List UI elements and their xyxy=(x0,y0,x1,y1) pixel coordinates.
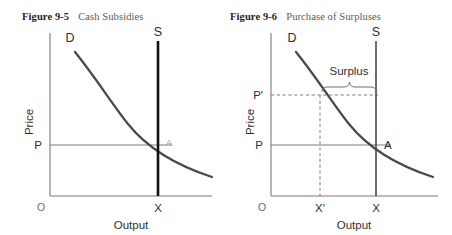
surplus-annotation-label: Surplus xyxy=(330,65,369,77)
x-axis-title: Output xyxy=(337,219,372,231)
x-tick-label-x-prime: X' xyxy=(315,202,325,214)
y-tick-label-p-prime: P' xyxy=(253,89,263,101)
supply-curve-label: S xyxy=(372,25,380,39)
y-axis-title: Price xyxy=(244,109,256,135)
figure-9-6-panel: Figure 9-6Purchase of Surpluses D S Surp… xyxy=(226,0,452,235)
x-tick-label-x: X xyxy=(154,202,162,214)
point-a-label: A xyxy=(384,139,392,151)
x-tick-label-x: X xyxy=(372,202,380,214)
demand-curve-label: D xyxy=(287,31,296,45)
x-axis-title: Output xyxy=(114,219,149,231)
y-tick-label-p: P xyxy=(255,139,263,151)
figure-9-5-labels: D S A P X O Price Output xyxy=(0,0,226,235)
figure-9-5-panel: Figure 9-5Cash Subsidies D S A P X O Pri… xyxy=(0,0,226,235)
origin-label: O xyxy=(37,201,45,213)
demand-curve-label: D xyxy=(65,31,74,45)
origin-label: O xyxy=(258,201,266,213)
y-axis-title: Price xyxy=(23,109,35,135)
figure-9-6-labels: D S Surplus A P' P X' X O Price Output xyxy=(226,0,452,235)
y-tick-label-p: P xyxy=(34,139,42,151)
point-a-label: A xyxy=(166,137,173,148)
supply-curve-label: S xyxy=(154,25,162,39)
